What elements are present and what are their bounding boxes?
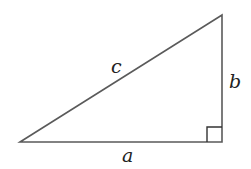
right-angle-marker (207, 127, 222, 142)
label-vertical-leg: b (229, 70, 241, 92)
label-hypotenuse: c (111, 55, 122, 77)
right-triangle-diagram: c b a (0, 0, 251, 169)
triangle (20, 15, 222, 142)
label-horizontal-leg: a (122, 144, 133, 166)
